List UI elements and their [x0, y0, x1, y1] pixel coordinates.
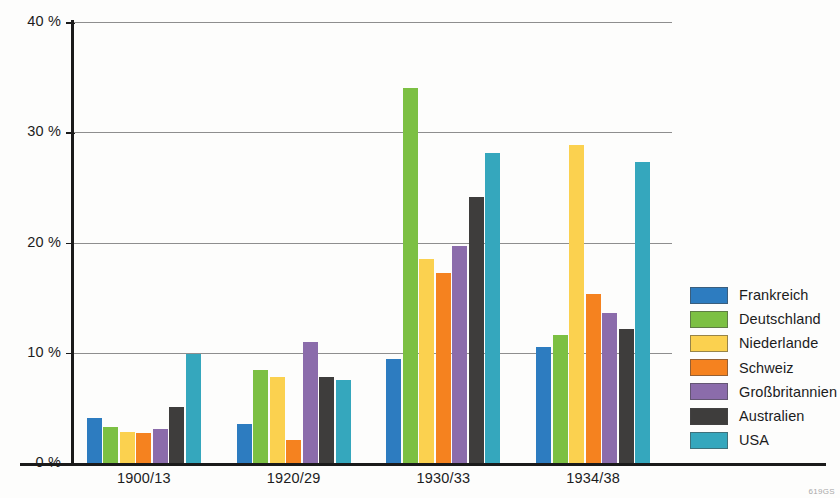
bar [153, 429, 168, 463]
bar [386, 359, 401, 463]
bar [469, 197, 484, 463]
legend-swatch-icon [690, 311, 728, 328]
bar [553, 335, 568, 463]
bar [237, 424, 252, 463]
bar [87, 418, 102, 463]
bar [619, 329, 634, 464]
legend-swatch-icon [690, 383, 728, 400]
bar-group [237, 22, 351, 463]
bar [253, 370, 268, 463]
bar [403, 88, 418, 463]
legend-label: Frankreich [739, 287, 809, 303]
legend-item-schweiz: Schweiz [690, 356, 837, 380]
y-tick-label: 20 % [1, 234, 61, 250]
bar [635, 162, 650, 463]
chart-screenshot: 0 %10 %20 %30 %40 % 1900/131920/291930/3… [0, 0, 840, 498]
bar [103, 427, 118, 463]
bar [286, 440, 301, 463]
legend-item-usa: USA [690, 428, 837, 452]
legend-label: Niederlande [739, 335, 818, 351]
bar [336, 380, 351, 463]
bar [436, 273, 451, 463]
bar [419, 259, 434, 463]
legend-swatch-icon [690, 359, 728, 376]
legend-item-frankreich: Frankreich [690, 283, 837, 307]
bar [319, 377, 334, 463]
bar [602, 313, 617, 463]
y-tick-label: 30 % [1, 123, 61, 139]
bar-group [386, 22, 500, 463]
legend-item-australien: Australien [690, 404, 837, 428]
bar-group [536, 22, 650, 463]
bar [536, 347, 551, 463]
bar [586, 294, 601, 463]
legend-label: Schweiz [739, 360, 794, 376]
x-tick-label: 1920/29 [234, 470, 354, 486]
bar [303, 342, 318, 463]
bar [485, 153, 500, 463]
bar [169, 407, 184, 463]
y-axis-line [71, 20, 74, 465]
y-tick-label: 0 % [1, 454, 61, 470]
x-tick-label: 1900/13 [84, 470, 204, 486]
legend-swatch-icon [690, 432, 728, 449]
bar [452, 246, 467, 463]
legend-item-deutschland: Deutschland [690, 307, 837, 331]
legend-label: Großbritannien [739, 384, 837, 400]
legend-swatch-icon [690, 287, 728, 304]
legend-label: USA [739, 432, 769, 448]
chart-legend: FrankreichDeutschlandNiederlandeSchweizG… [690, 283, 837, 452]
bar [270, 377, 285, 463]
x-axis-line [20, 463, 826, 466]
y-tick-label: 40 % [1, 13, 61, 29]
legend-swatch-icon [690, 408, 728, 425]
bar [136, 433, 151, 463]
bar [120, 432, 135, 463]
x-tick-label: 1934/38 [533, 470, 653, 486]
bar [186, 354, 201, 463]
y-tick-label: 10 % [1, 344, 61, 360]
legend-item-niederlande: Niederlande [690, 331, 837, 355]
plot-area [73, 22, 672, 463]
legend-swatch-icon [690, 335, 728, 352]
bar [569, 145, 584, 463]
watermark-text: 619GS [809, 487, 835, 496]
legend-item-grossbritannien: Großbritannien [690, 380, 837, 404]
x-tick-label: 1930/33 [383, 470, 503, 486]
legend-label: Australien [739, 408, 804, 424]
legend-label: Deutschland [739, 311, 821, 327]
bar-group [87, 22, 201, 463]
